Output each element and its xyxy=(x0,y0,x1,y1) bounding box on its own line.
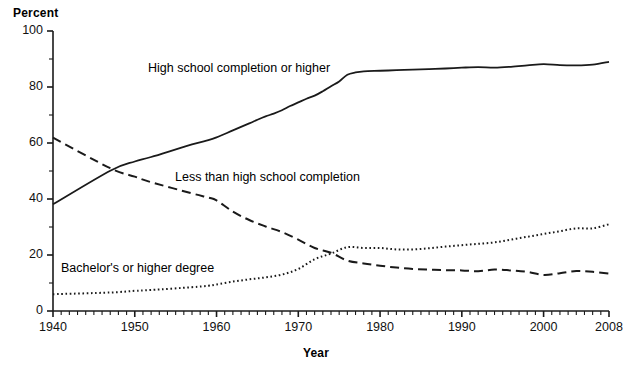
x-axis-title: Year xyxy=(0,346,632,360)
series-label-less-than-high-school: Less than high school completion xyxy=(175,170,360,184)
series-line-1 xyxy=(53,138,609,275)
x-tick-label-1960: 1960 xyxy=(187,320,247,334)
series-label-high-school: High school completion or higher xyxy=(148,61,330,75)
x-tick-label-1990: 1990 xyxy=(432,320,492,334)
y-axis-title: Percent xyxy=(13,6,58,20)
y-tick-label-20: 20 xyxy=(9,247,43,261)
x-tick-label-1940: 1940 xyxy=(23,320,83,334)
plot-area xyxy=(0,0,632,370)
y-tick-label-0: 0 xyxy=(9,303,43,317)
x-tick-label-2000: 2000 xyxy=(514,320,574,334)
chart-figure: Percent Year High school completion or h… xyxy=(0,0,632,370)
x-tick-label-1970: 1970 xyxy=(268,320,328,334)
x-tick-label-1980: 1980 xyxy=(350,320,410,334)
series-label-bachelors: Bachelor's or higher degree xyxy=(61,261,214,275)
series-line-2 xyxy=(53,224,609,294)
x-tick-label-1950: 1950 xyxy=(105,320,165,334)
x-tick-label-2008: 2008 xyxy=(579,320,632,334)
y-tick-label-80: 80 xyxy=(9,79,43,93)
y-tick-label-60: 60 xyxy=(9,135,43,149)
y-tick-label-100: 100 xyxy=(9,23,43,37)
y-tick-label-40: 40 xyxy=(9,191,43,205)
